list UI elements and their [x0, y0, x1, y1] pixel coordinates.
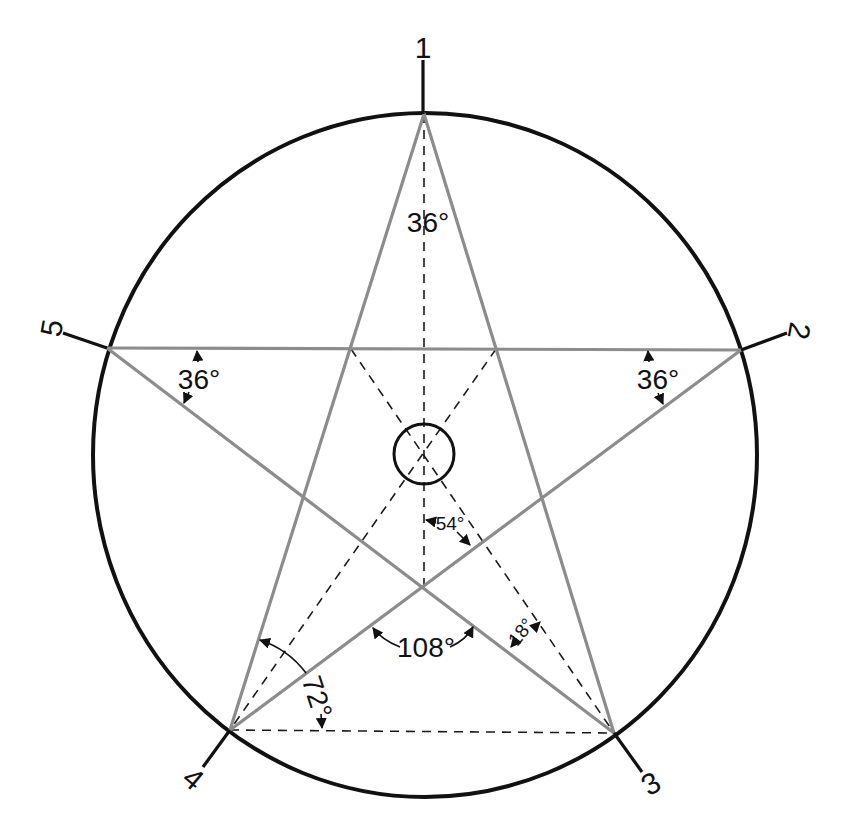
dashed-base-line: [230, 730, 614, 733]
angle-label-left-36: 36°: [178, 364, 220, 395]
arrow-icon: [197, 351, 198, 362]
arrow-arc-icon: [260, 640, 306, 673]
arrow-arc-icon: [373, 628, 400, 647]
tick-vertex-4: [203, 730, 230, 767]
arrow-icon: [321, 714, 322, 728]
arrow-icon: [426, 520, 436, 522]
arrow-icon: [648, 351, 649, 362]
vertex-ticks: [63, 60, 787, 772]
star-edge-2-4: [230, 350, 741, 730]
tick-vertex-3: [614, 733, 642, 772]
star-edge-4-1: [230, 114, 424, 730]
vertex-label-5: 5: [34, 317, 69, 339]
vertex-label-2: 2: [782, 320, 817, 342]
star-edge-5-2: [107, 348, 741, 350]
vertex-label-1: 1: [415, 31, 432, 64]
angle-label-54: 54°: [436, 513, 465, 534]
angle-label-72: 72°: [296, 672, 339, 722]
angle-label-18: 18°: [504, 614, 538, 650]
angle-label-top-36: 36°: [407, 207, 449, 238]
vertex-label-4: 4: [176, 761, 210, 797]
angle-label-108: 108°: [397, 632, 455, 663]
star-edge-3-5: [107, 348, 614, 733]
angle-label-right-36: 36°: [637, 364, 679, 395]
tick-vertex-5: [63, 333, 107, 348]
dashed-line-to-vertex-4: [230, 349, 496, 730]
tick-vertex-2: [741, 333, 787, 350]
pentagram-diagram: 1 2 3 4 5 36° 36° 36° 54° 108° 18° 72°: [0, 0, 841, 838]
vertex-label-3: 3: [635, 765, 666, 802]
